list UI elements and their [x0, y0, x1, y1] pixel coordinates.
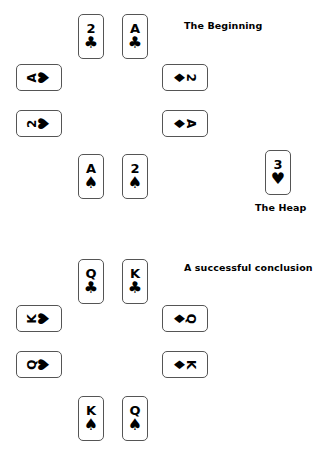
card-ace-of-clubs[interactable]: A ♣ — [122, 14, 148, 59]
card-2-of-hearts[interactable]: 2 ♥ — [16, 110, 62, 137]
clubs-suit-icon: ♣ — [128, 36, 142, 50]
card-ace-of-hearts[interactable]: A ♥ — [16, 64, 62, 91]
hearts-suit-icon: ♥ — [38, 358, 52, 371]
hearts-suit-icon: ♥ — [271, 172, 285, 186]
spades-suit-icon: ♠ — [84, 418, 98, 432]
card-king-of-hearts[interactable]: K ♥ — [16, 305, 62, 332]
caption-successful-conclusion: A successful conclusion — [184, 262, 313, 273]
diamonds-suit-icon: ♦ — [172, 358, 186, 371]
caption-the-heap: The Heap — [255, 202, 306, 213]
card-face: A ♥ — [26, 71, 52, 84]
spades-suit-icon: ♠ — [128, 418, 142, 432]
hearts-suit-icon: ♥ — [38, 71, 52, 84]
clubs-suit-icon: ♣ — [128, 281, 142, 295]
card-king-of-diamonds[interactable]: K ♦ — [162, 351, 208, 378]
card-face: 2 ♦ — [172, 71, 198, 84]
card-face: K ♦ — [172, 358, 198, 371]
card-face: Q ♦ — [172, 312, 198, 325]
card-queen-of-hearts[interactable]: Q ♥ — [16, 351, 62, 378]
hearts-suit-icon: ♥ — [38, 117, 52, 130]
card-king-of-clubs[interactable]: K ♣ — [122, 259, 148, 304]
diamonds-suit-icon: ♦ — [172, 117, 186, 130]
card-3-of-hearts[interactable]: 3 ♥ — [265, 150, 291, 195]
card-2-of-clubs[interactable]: 2 ♣ — [78, 14, 104, 59]
card-face: 2 ♥ — [26, 117, 52, 130]
card-face: Q ♥ — [26, 358, 52, 371]
card-queen-of-diamonds[interactable]: Q ♦ — [162, 305, 208, 332]
card-ace-of-spades[interactable]: A ♠ — [78, 154, 104, 199]
spades-suit-icon: ♠ — [84, 176, 98, 190]
clubs-suit-icon: ♣ — [84, 281, 98, 295]
card-face: K ♥ — [26, 312, 52, 325]
card-queen-of-spades[interactable]: Q ♠ — [122, 396, 148, 441]
hearts-suit-icon: ♥ — [38, 312, 52, 325]
diamonds-suit-icon: ♦ — [172, 71, 186, 84]
playing-card-diagram-page: { "page": { "title": "Playing card puzzl… — [0, 0, 321, 449]
card-ace-of-diamonds[interactable]: A ♦ — [162, 110, 208, 137]
caption-the-beginning: The Beginning — [184, 20, 262, 31]
card-2-of-diamonds[interactable]: 2 ♦ — [162, 64, 208, 91]
card-queen-of-clubs[interactable]: Q ♣ — [78, 259, 104, 304]
clubs-suit-icon: ♣ — [84, 36, 98, 50]
card-2-of-spades[interactable]: 2 ♠ — [122, 154, 148, 199]
card-king-of-spades[interactable]: K ♠ — [78, 396, 104, 441]
card-face: A ♦ — [172, 117, 198, 130]
spades-suit-icon: ♠ — [128, 176, 142, 190]
diamonds-suit-icon: ♦ — [172, 312, 186, 325]
